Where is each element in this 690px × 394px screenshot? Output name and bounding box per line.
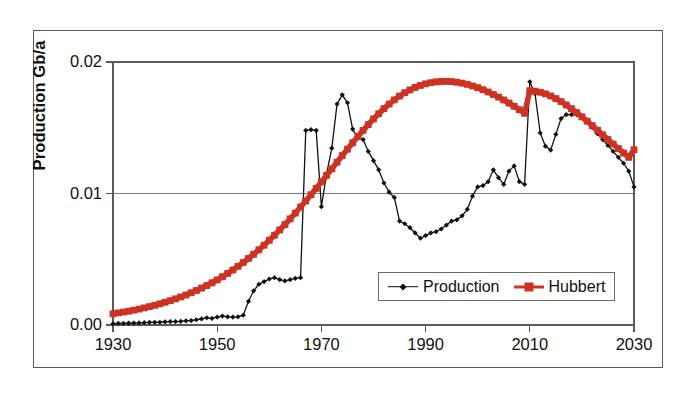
production-point (163, 319, 168, 324)
hubbert-point (287, 215, 294, 222)
production-point (199, 316, 204, 321)
production-point (308, 127, 313, 132)
hubbert-point (339, 152, 346, 159)
production-point (152, 320, 157, 325)
x-tick-label-1990: 1990 (394, 335, 458, 354)
production-point (314, 128, 319, 133)
x-tick-label-1970: 1970 (289, 335, 353, 354)
production-point (157, 320, 162, 325)
hubbert-point (521, 110, 528, 117)
hubbert-point (631, 146, 638, 153)
x-tick-label-2030: 2030 (602, 335, 666, 354)
production-point (204, 315, 209, 320)
production-point (553, 132, 558, 137)
hubbert-point (323, 172, 330, 179)
production-point (475, 184, 480, 189)
production-point (288, 277, 293, 282)
x-tick-label-1950: 1950 (185, 335, 249, 354)
y-tick-label-0.01: 0.01 (56, 184, 102, 203)
y-tick-label-0.00: 0.00 (56, 315, 102, 334)
production-point (277, 277, 282, 282)
production-point (293, 276, 298, 281)
chart-legend: Production Hubbert (378, 272, 615, 301)
legend-label-hubbert: Hubbert (549, 278, 606, 296)
production-point (246, 299, 251, 304)
production-point (298, 275, 303, 280)
production-point (350, 126, 355, 131)
hubbert-production-chart: Production Gb/a Production Hubbert 0.020… (0, 0, 690, 394)
hubbert-point (308, 191, 315, 198)
production-point (220, 313, 225, 318)
production-point (173, 319, 178, 324)
production-point (282, 278, 287, 283)
production-point (334, 101, 339, 106)
production-point (189, 318, 194, 323)
production-point (470, 194, 475, 199)
x-tick-label-1930: 1930 (81, 335, 145, 354)
legend-item-hubbert[interactable]: Hubbert (514, 278, 606, 296)
hubbert-marker-icon (514, 281, 544, 293)
hubbert-point (354, 133, 361, 140)
hubbert-point (625, 154, 632, 161)
production-point (230, 315, 235, 320)
production-point (366, 149, 371, 154)
production-point (183, 318, 188, 323)
hubbert-point (360, 127, 367, 134)
production-point (209, 316, 214, 321)
production-point (194, 317, 199, 322)
x-tick-label-2010: 2010 (498, 335, 562, 354)
y-tick-label-0.02: 0.02 (56, 52, 102, 71)
hubbert-point (344, 146, 351, 153)
production-point (522, 182, 527, 187)
production-point (272, 275, 277, 280)
hubbert-point (318, 179, 325, 186)
hubbert-point (313, 185, 320, 192)
hubbert-point (292, 210, 299, 217)
production-point (215, 315, 220, 320)
hubbert-point (297, 204, 304, 211)
legend-label-production: Production (423, 278, 500, 296)
production-point (147, 320, 152, 325)
production-point (423, 233, 428, 238)
production-marker-icon (388, 281, 418, 293)
production-point (241, 313, 246, 318)
hubbert-point (334, 159, 341, 166)
production-point (371, 158, 376, 163)
legend-item-production[interactable]: Production (388, 278, 500, 296)
hubbert-point (328, 165, 335, 172)
production-point (303, 128, 308, 133)
production-point (376, 167, 381, 172)
production-point (538, 130, 543, 135)
production-point (225, 314, 230, 319)
production-point (178, 319, 183, 324)
production-point (631, 184, 636, 189)
production-point (235, 314, 240, 319)
production-point (261, 279, 266, 284)
production-point (168, 319, 173, 324)
hubbert-point (302, 198, 309, 205)
production-point (527, 79, 532, 84)
hubbert-point (349, 139, 356, 146)
production-point (267, 276, 272, 281)
production-point (381, 180, 386, 185)
production-point (329, 146, 334, 151)
production-point (319, 204, 324, 209)
production-point (397, 219, 402, 224)
production-point (428, 230, 433, 235)
production-point (433, 229, 438, 234)
production-point (517, 179, 522, 184)
